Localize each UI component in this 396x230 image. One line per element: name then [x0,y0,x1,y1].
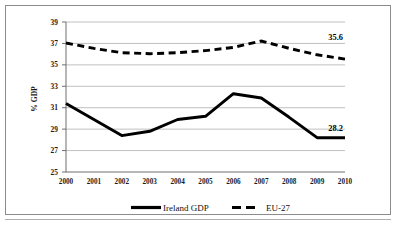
x-tick-label: 2006 [226,178,241,186]
x-tick-label: 2000 [59,178,74,186]
x-tick-label: 2009 [310,178,325,186]
y-tick-label: 27 [51,146,59,155]
x-tick-label: 2007 [254,178,269,186]
y-tick-label: 25 [51,168,59,177]
x-tick-labels: 2000 2001 2002 2003 2004 2005 2006 2007 … [59,178,353,186]
y-tick-marks [62,22,66,172]
y-tick-label: 29 [51,125,59,134]
y-tick-label: 35 [51,60,59,69]
y-tick-label: 31 [51,103,59,112]
x-tick-label: 2008 [282,178,297,186]
chart-canvas: 39 37 35 33 31 29 27 25 % GDP 2000 2001 … [0,0,396,230]
axes [66,22,345,172]
data-label-eu-27: 35.6 [328,33,343,42]
x-tick-label: 2010 [338,178,353,186]
figure-container: 39 37 35 33 31 29 27 25 % GDP 2000 2001 … [0,0,396,230]
y-axis-title: % GDP [30,86,39,112]
x-tick-label: 2002 [115,178,130,186]
gridlines [66,22,345,151]
series-line-ireland-gdp [66,94,345,138]
data-label-ireland-gdp: 28.2 [328,124,343,133]
y-tick-label: 33 [51,82,59,91]
chart-legend: Ireland GDP EU-27 [131,203,290,213]
x-tick-label: 2003 [143,178,158,186]
legend-label-eu-27: EU-27 [266,203,290,213]
x-tick-label: 2001 [87,178,102,186]
y-tick-labels: 39 37 35 33 31 29 27 25 [51,18,59,177]
legend-label-ireland-gdp: Ireland GDP [163,203,209,213]
x-tick-label: 2004 [170,178,185,186]
x-tick-label: 2005 [198,178,213,186]
y-tick-label: 39 [51,18,59,27]
line-chart-svg: 39 37 35 33 31 29 27 25 % GDP 2000 2001 … [0,0,396,230]
y-tick-label: 37 [51,39,59,48]
